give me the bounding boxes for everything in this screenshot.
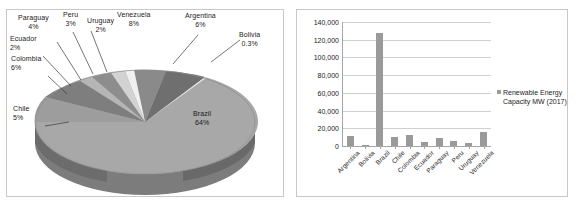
y-axis-tick-label: 60,000 — [318, 89, 339, 96]
pie-label-chile-value: 5% — [13, 114, 23, 121]
pie-label-paraguay: Paraguay 4% — [18, 14, 49, 31]
pie-chart-panel: Paraguay 4% Peru 3% Uruguay 2% Venezuela… — [6, 9, 284, 197]
pie-label-peru-name: Peru — [63, 11, 78, 18]
pie-label-bolivia: Bolivia 0.3% — [239, 31, 260, 48]
screenshot-root: Paraguay 4% Peru 3% Uruguay 2% Venezuela… — [0, 0, 576, 206]
bar-chart-panel: 140,000120,000100,00080,00060,00040,0002… — [296, 9, 568, 197]
bar — [480, 132, 487, 146]
pie-label-peru: Peru 3% — [63, 11, 78, 28]
pie-label-brazil-value: 64% — [195, 119, 209, 126]
bar — [376, 33, 383, 146]
pie-label-paraguay-value: 4% — [28, 23, 38, 30]
pie-label-venezuela-value: 8% — [129, 20, 139, 27]
pie-label-venezuela: Venezuela 8% — [117, 11, 151, 28]
pie-label-brazil-name: Brazil — [193, 110, 211, 117]
pie-label-ecuador-name: Ecuador — [10, 35, 37, 42]
pie-label-chile-name: Chile — [13, 105, 29, 112]
pie-label-bolivia-name: Bolivia — [239, 31, 260, 38]
pie-label-argentina-value: 6% — [195, 21, 205, 28]
pie-label-argentina-name: Argentina — [185, 12, 216, 19]
y-axis-tick-label: 100,000 — [314, 54, 339, 61]
pie-label-colombia-value: 6% — [11, 64, 21, 71]
legend-label: Renewable Energy Capacity MW (2017) — [503, 88, 567, 106]
pie-label-chile: Chile 5% — [13, 105, 29, 122]
pie-label-colombia: Colombia 6% — [11, 55, 41, 72]
pie-label-brazil: Brazil 64% — [193, 110, 211, 127]
bar-series — [343, 22, 491, 146]
pie-label-uruguay-value: 2% — [95, 26, 105, 33]
y-axis-tick-label: 120,000 — [314, 36, 339, 43]
y-axis-labels: 140,000120,000100,00080,00060,00040,0002… — [299, 10, 339, 196]
y-axis-tick-label: 140,000 — [314, 19, 339, 26]
pie-label-peru-value: 3% — [65, 20, 75, 27]
pie-label-uruguay: Uruguay 2% — [87, 17, 114, 34]
pie-label-paraguay-name: Paraguay — [18, 14, 49, 21]
pie-label-ecuador: Ecuador 2% — [10, 35, 37, 52]
pie-label-argentina: Argentina 6% — [185, 12, 216, 29]
pie-chart-stage: Paraguay 4% Peru 3% Uruguay 2% Venezuela… — [7, 10, 283, 196]
x-axis-labels: ArgentinaBoliviaBrazilChileColombiaEcuad… — [342, 149, 494, 195]
legend-swatch-icon — [497, 90, 501, 94]
pie-label-ecuador-value: 2% — [10, 44, 20, 51]
bar — [406, 135, 413, 146]
pie-label-colombia-name: Colombia — [11, 55, 41, 62]
y-axis-tick-label: 0 — [335, 143, 339, 150]
chart-legend: Renewable Energy Capacity MW (2017) — [497, 88, 567, 106]
bar-plot-area — [342, 22, 491, 147]
pie-label-bolivia-value: 0.3% — [241, 40, 257, 47]
bar — [347, 136, 354, 146]
bar — [391, 137, 398, 146]
x-axis-tick-label: Brazil — [374, 149, 391, 166]
pie-label-uruguay-name: Uruguay — [87, 17, 114, 24]
pie-label-venezuela-name: Venezuela — [117, 11, 151, 18]
y-axis-tick-label: 20,000 — [318, 125, 339, 132]
bar — [436, 138, 443, 146]
y-axis-tick-label: 40,000 — [318, 107, 339, 114]
bar-chart-stage: 140,000120,000100,00080,00060,00040,0002… — [297, 10, 567, 196]
y-axis-tick-label: 80,000 — [318, 72, 339, 79]
